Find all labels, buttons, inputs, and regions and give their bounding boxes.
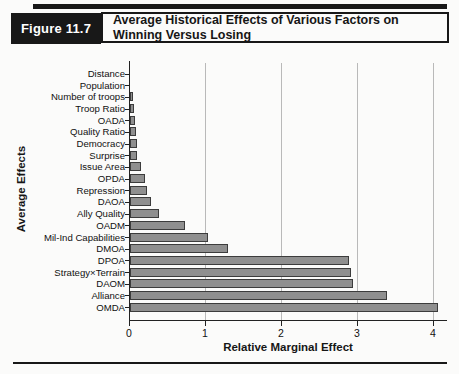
bar [130,221,185,230]
x-tick-3 [357,321,358,326]
category-label: Democracy [0,138,125,149]
category-label: Population [0,80,125,91]
category-label: OMDA [0,302,125,313]
bar [130,303,438,312]
y-tick [125,85,129,86]
bar [130,104,134,113]
header-top-rule [33,4,447,9]
y-tick [125,284,129,285]
x-tick-2 [281,321,282,326]
bar [130,209,159,218]
bar [130,244,228,253]
y-tick [125,97,129,98]
figure-bottom-rule [13,362,447,364]
y-tick [125,74,129,75]
x-tick-label-3: 3 [343,327,371,339]
bar [130,151,137,160]
y-tick [125,225,129,226]
y-tick [125,202,129,203]
bar [130,256,349,265]
bar [130,268,351,277]
bar [130,291,387,300]
figure-title-line1: Average Historical Effects of Various Fa… [113,13,446,28]
x-axis-title: Relative Marginal Effect [129,341,447,353]
category-label: DAOM [0,278,125,289]
category-label: Repression [0,185,125,196]
bar [130,197,151,206]
x-tick-label-4: 4 [419,327,447,339]
category-label: Strategy×Terrain [0,267,125,278]
bar [130,92,133,101]
category-label: Issue Area [0,161,125,172]
y-tick [125,307,129,308]
category-label: OPDA [0,173,125,184]
y-tick [125,144,129,145]
bar [130,279,353,288]
y-tick [125,179,129,180]
category-label: Number of troops [0,91,125,102]
category-label: OADM [0,220,125,231]
category-label: Distance [0,68,125,79]
x-tick-label-2: 2 [267,327,295,339]
figure-title-line2: Winning Versus Losing [113,28,446,43]
y-tick [125,249,129,250]
x-axis-line [129,320,447,321]
figure-title-box: Average Historical Effects of Various Fa… [101,12,449,43]
bar [130,127,136,136]
bar [130,139,137,148]
category-label: Ally Quality [0,208,125,219]
figure-number-label: Figure 11.7 [21,21,91,36]
category-label: OADA [0,115,125,126]
bar [130,174,145,183]
category-label: Troop Ratio [0,103,125,114]
x-tick-0 [129,321,130,326]
figure-page: Figure 11.7 Average Historical Effects o… [0,0,459,374]
y-tick [125,120,129,121]
y-tick [125,295,129,296]
y-tick [125,214,129,215]
y-tick [125,260,129,261]
bar [130,233,208,242]
category-label: Alliance [0,290,125,301]
category-label: Surprise [0,150,125,161]
category-label: Mil-Ind Capabilities [0,232,125,243]
category-label: Quality Ratio [0,126,125,137]
y-tick [125,272,129,273]
bar [130,186,147,195]
bar [130,116,135,125]
y-tick [125,109,129,110]
gridline-x4 [433,63,434,320]
y-tick [125,167,129,168]
x-tick-label-1: 1 [191,327,219,339]
category-label: DMOA [0,243,125,254]
x-tick-4 [433,321,434,326]
y-tick [125,132,129,133]
category-label: DAOA [0,196,125,207]
y-tick [125,155,129,156]
category-label: DPOA [0,255,125,266]
figure-number-badge: Figure 11.7 [11,13,101,44]
x-tick-1 [205,321,206,326]
x-tick-label-0: 0 [115,327,143,339]
gridline-x3 [357,63,358,320]
bar [130,162,141,171]
y-tick [125,237,129,238]
y-tick [125,190,129,191]
